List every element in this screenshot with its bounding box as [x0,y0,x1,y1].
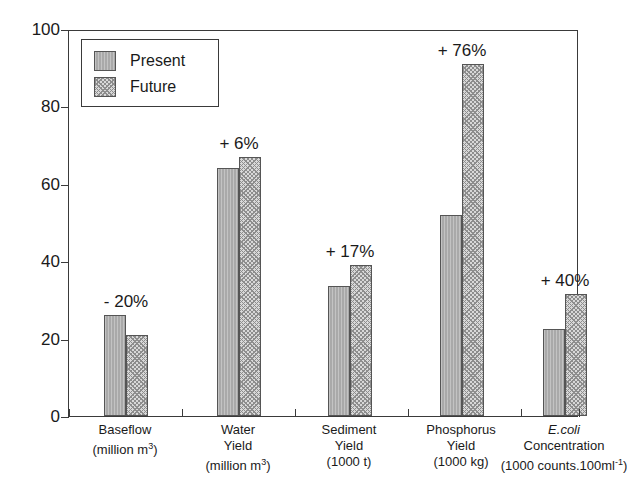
y-tick-label: 80 [14,98,60,115]
bar-present-2 [328,286,350,416]
y-tick-label: 60 [14,176,60,193]
x-label-line1: Baseflow [93,422,158,438]
x-label-line3: (1000 kg) [426,454,495,470]
y-tick-mark [61,417,69,418]
x-category-label-1: WaterYield(million m3) [206,422,271,474]
percent-annotation-0: - 20% [104,293,148,310]
percent-annotation-2: + 17% [326,243,375,260]
y-axis: 020406080100 [8,0,60,499]
y-tick-mark [61,107,69,108]
x-label-line3: (1000 t) [322,454,377,470]
x-category-label-0: Baseflow(million m3) [93,422,158,458]
bar-future-1 [239,157,261,416]
x-label-line2: Concentration [501,438,627,454]
y-tick-mark [61,30,69,31]
x-category-label-2: SedimentYield(1000 t) [322,422,377,470]
legend-label-present: Present [130,53,185,69]
x-label-line1: Sediment [322,422,377,438]
y-tick-label: 40 [14,253,60,270]
bar-future-4 [565,294,587,416]
x-label-line1: Water [206,422,271,438]
bar-present-1 [217,168,239,416]
x-tick-mark [295,409,296,417]
chart-legend: Present Future [81,39,219,107]
bar-present-0 [104,315,126,416]
bar-present-3 [440,215,462,416]
y-tick-label: 20 [14,331,60,348]
y-tick-label: 100 [14,21,60,38]
x-label-line2: Yield [206,438,271,454]
x-tick-mark [521,409,522,417]
x-label-line2: Yield [426,438,495,454]
y-tick-mark [61,262,69,263]
x-label-line3: (1000 counts.100ml-1) [501,454,627,474]
legend-label-future: Future [130,79,176,95]
x-tick-mark [408,409,409,417]
legend-item-present: Present [94,48,218,74]
percent-annotation-4: + 40% [541,272,590,289]
x-category-label-3: PhosphorusYield(1000 kg) [426,422,495,470]
plot-frame: - 20%+ 6%+ 17%+ 76%+ 40% Present Future [68,30,578,417]
y-tick-mark [61,340,69,341]
legend-item-future: Future [94,74,218,100]
x-label-line1: Phosphorus [426,422,495,438]
percent-annotation-1: + 6% [219,135,258,152]
x-tick-mark [182,409,183,417]
x-category-label-4: E.coliConcentration(1000 counts.100ml-1) [501,422,627,474]
legend-swatch-future-icon [94,77,116,97]
x-axis-labels: Baseflow(million m3)WaterYield(million m… [68,422,578,492]
bar-present-4 [543,329,565,416]
x-label-line2: (million m3) [93,438,158,458]
x-tick-mark [579,409,580,417]
y-tick-label: 0 [14,408,60,425]
y-tick-mark [61,185,69,186]
x-label-line3: (million m3) [206,454,271,474]
bar-future-2 [350,265,372,416]
x-tick-mark [69,409,70,417]
bar-future-3 [462,64,484,416]
x-label-line1: E.coli [501,422,627,438]
bar-future-0 [126,335,148,416]
x-label-line2: Yield [322,438,377,454]
legend-swatch-present-icon [94,51,116,71]
percent-annotation-3: + 76% [438,42,487,59]
